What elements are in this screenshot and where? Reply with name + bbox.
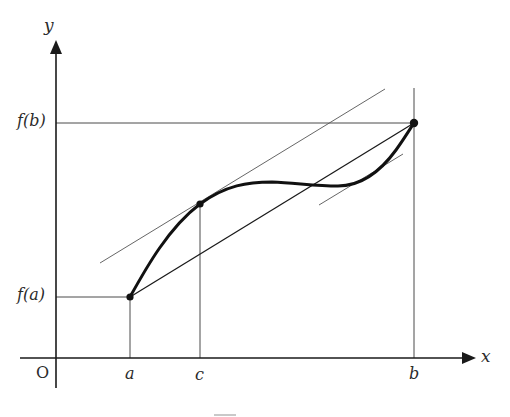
point-marker-b bbox=[410, 119, 418, 127]
value-label-f-of-a: f(a) bbox=[17, 287, 45, 303]
secant-line-a-to-b bbox=[130, 123, 414, 297]
tick-label-a: a bbox=[125, 366, 135, 382]
x-axis-label: x bbox=[481, 348, 491, 365]
axes-group bbox=[20, 40, 476, 388]
point-marker-a bbox=[126, 293, 133, 300]
guide-lines-group bbox=[56, 88, 414, 358]
x-axis-arrow-icon bbox=[462, 352, 476, 364]
tangent-line-at-c bbox=[100, 89, 385, 263]
origin-label: O bbox=[36, 365, 49, 381]
y-axis-arrow-icon bbox=[50, 40, 62, 54]
tangent-lines-group bbox=[100, 89, 403, 263]
point-marker-c bbox=[196, 200, 203, 207]
tick-label-c: c bbox=[195, 367, 204, 383]
scan-artifact bbox=[214, 414, 236, 416]
tick-label-b: b bbox=[409, 366, 419, 382]
diagram-canvas bbox=[0, 0, 510, 417]
value-label-f-of-b: f(b) bbox=[17, 113, 46, 129]
y-axis-label: y bbox=[44, 17, 54, 34]
mean-value-theorem-figure: y x O f(b) f(a) a c b bbox=[0, 0, 510, 417]
